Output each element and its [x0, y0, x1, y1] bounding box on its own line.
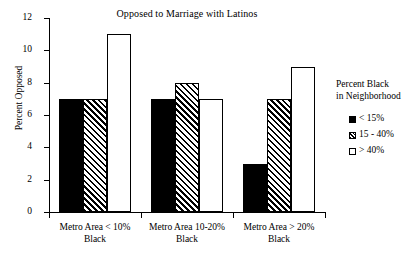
legend: Percent Black in Neighborhood < 15%15 - … — [336, 79, 419, 159]
x-group-label-line-1: Metro Area < 10% — [49, 222, 141, 234]
legend-title-line-2: in Neighborhood — [336, 91, 419, 103]
bar-3-2 — [267, 99, 291, 212]
legend-swatch-icon-2 — [349, 132, 356, 139]
plot-area — [49, 18, 325, 212]
y-tick-label: 0 — [0, 207, 40, 217]
legend-entry-2: 15 - 40% — [336, 127, 419, 143]
y-tick-label: 2 — [0, 175, 40, 185]
legend-label-2: 15 - 40% — [359, 130, 394, 140]
chart-figure: Opposed to Marriage with Latinos Percent… — [0, 0, 419, 263]
legend-title-line-1: Percent Black — [336, 79, 419, 91]
y-axis-label: Percent Opposed — [14, 43, 24, 153]
legend-swatch-icon-3 — [349, 148, 356, 155]
bar-1-2 — [83, 99, 107, 212]
x-group-label-line-2: Black — [233, 234, 325, 246]
y-tick-label: 12 — [0, 13, 40, 23]
legend-entry-3: > 40% — [336, 143, 419, 159]
x-group-label-3: Metro Area > 20%Black — [233, 222, 325, 245]
x-group-label-1: Metro Area < 10%Black — [49, 222, 141, 245]
y-tick-label: 8 — [0, 78, 40, 88]
x-axis-line — [49, 212, 326, 213]
x-group-label-line-1: Metro Area > 20% — [233, 222, 325, 234]
bar-2-2 — [175, 83, 199, 212]
bar-1-3 — [107, 34, 131, 212]
legend-entry-1: < 15% — [336, 111, 419, 127]
y-tick-label: 10 — [0, 45, 40, 55]
bar-1-1 — [59, 99, 83, 212]
legend-entry-list: < 15%15 - 40%> 40% — [336, 111, 419, 159]
x-tick-mark — [325, 213, 326, 218]
x-group-label-line-2: Black — [141, 234, 233, 246]
legend-label-1: < 15% — [359, 114, 384, 124]
legend-label-3: > 40% — [359, 146, 384, 156]
x-group-label-line-2: Black — [49, 234, 141, 246]
x-tick-mark — [49, 213, 50, 218]
x-tick-mark — [233, 213, 234, 218]
y-tick-label: 4 — [0, 142, 40, 152]
bar-3-3 — [291, 67, 315, 213]
bar-2-3 — [199, 99, 223, 212]
x-tick-mark — [141, 213, 142, 218]
y-tick-label: 6 — [0, 110, 40, 120]
bar-3-1 — [243, 164, 267, 213]
legend-swatch-icon-1 — [349, 116, 356, 123]
bar-2-1 — [151, 99, 175, 212]
x-group-label-2: Metro Area 10-20%Black — [141, 222, 233, 245]
x-group-label-line-1: Metro Area 10-20% — [141, 222, 233, 234]
